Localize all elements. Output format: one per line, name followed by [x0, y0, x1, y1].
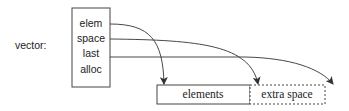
last-pointer-arrow	[110, 57, 333, 84]
field-alloc: alloc	[80, 63, 102, 75]
space-pointer-arrow	[110, 39, 258, 84]
vector-diagram: vector: elem space last alloc elements e…	[0, 0, 349, 111]
extra-space-label: extra space	[261, 88, 312, 101]
elements-label: elements	[183, 88, 224, 100]
elem-pointer-arrow	[110, 24, 164, 84]
field-last: last	[83, 47, 99, 59]
field-elem: elem	[80, 17, 103, 29]
vector-label: vector:	[15, 39, 47, 51]
field-space: space	[77, 32, 105, 44]
